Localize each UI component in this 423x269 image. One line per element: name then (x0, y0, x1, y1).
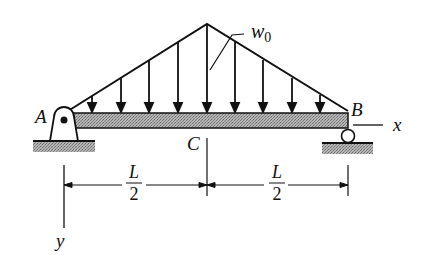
midpoint-label: C (187, 133, 200, 154)
dim-left-fraction: L 2 (126, 162, 142, 204)
beam (70, 113, 348, 128)
ground-right (322, 144, 373, 154)
roller-support-b (322, 130, 373, 155)
load-arrow-icon (231, 42, 239, 112)
pin-icon (61, 117, 68, 124)
triangular-load (68, 24, 348, 111)
load-arrows (88, 24, 324, 112)
y-axis-label: y (54, 230, 65, 251)
svg-text:2: 2 (130, 184, 139, 204)
load-arrow-icon (117, 78, 125, 112)
load-arrow-icon (203, 24, 211, 112)
svg-text:L: L (128, 162, 139, 182)
load-arrow-icon (259, 60, 267, 112)
roller-icon (342, 130, 355, 143)
load-arrow-icon (174, 42, 182, 112)
support-b-label: B (351, 99, 363, 120)
support-a-label: A (33, 106, 47, 127)
beam-diagram: w0 A B x C y L 2 (0, 0, 423, 269)
load-arrow-icon (145, 60, 153, 112)
load-leader-line (210, 34, 244, 70)
load-arrow-icon (288, 78, 296, 112)
dim-right-fraction: L 2 (269, 162, 285, 204)
load-label: w0 (251, 20, 271, 45)
ground-left (33, 142, 95, 152)
svg-text:2: 2 (273, 184, 282, 204)
load-arrow-icon (316, 95, 324, 112)
svg-text:L: L (271, 162, 282, 182)
x-axis-label: x (392, 114, 402, 135)
